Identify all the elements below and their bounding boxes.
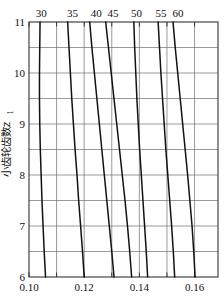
y-axis-title-group: 小齿轮齿数z1	[0, 111, 15, 178]
curve-labels: 30354045505560	[36, 7, 184, 19]
x-axis-tick-labels: 0.100.120.140.16	[19, 281, 204, 293]
chart-figure: 0.100.120.140.16 67891011 30354045505560…	[0, 0, 224, 306]
y-tick-label: 7	[20, 220, 26, 232]
curve-label-35: 35	[67, 7, 79, 19]
x-tick-label: 0.12	[75, 281, 94, 293]
y-axis-tick-labels: 67891011	[14, 16, 26, 283]
y-tick-label: 6	[20, 271, 26, 283]
curve-label-45: 45	[107, 7, 119, 19]
y-axis-title-subscript: 1	[6, 111, 15, 115]
y-tick-label: 8	[20, 169, 26, 181]
x-tick-label: 0.14	[130, 281, 150, 293]
y-tick-label: 10	[14, 67, 26, 79]
curve-label-50: 50	[131, 7, 143, 19]
x-tick-label: 0.16	[185, 281, 205, 293]
y-axis-title-text: 小齿轮齿数z	[0, 121, 12, 177]
y-axis-title: 小齿轮齿数z1	[0, 111, 15, 178]
curve-label-30: 30	[36, 7, 48, 19]
curve-label-55: 55	[155, 7, 167, 19]
y-tick-label: 9	[20, 118, 26, 130]
chart-canvas: 0.100.120.140.16 67891011 30354045505560…	[0, 0, 224, 306]
y-tick-label: 11	[14, 16, 25, 28]
curve-label-40: 40	[91, 7, 103, 19]
curve-label-60: 60	[172, 7, 184, 19]
